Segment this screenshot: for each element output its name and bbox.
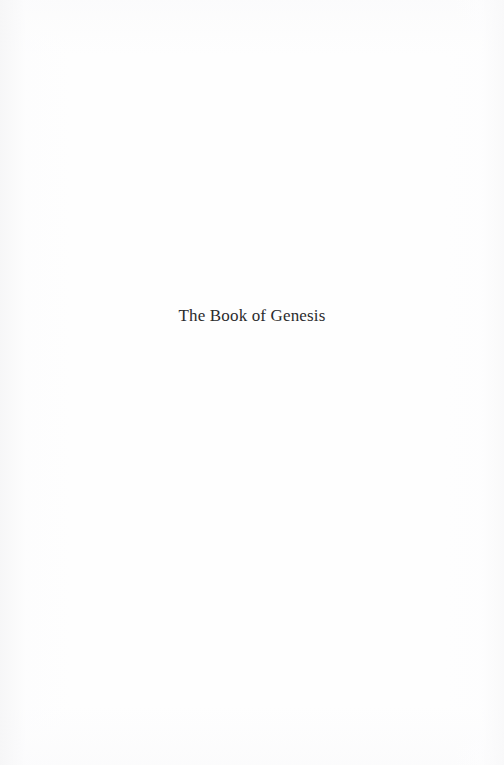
paper-texture bbox=[0, 0, 504, 765]
title-block: The Book of Genesis bbox=[0, 306, 504, 326]
page-title: The Book of Genesis bbox=[179, 306, 326, 326]
scanned-page: The Book of Genesis bbox=[0, 0, 504, 765]
